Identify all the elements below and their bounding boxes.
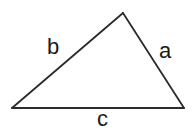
triangle-edge-a (123, 13, 184, 108)
triangle-diagram: b a c (0, 0, 196, 130)
side-label-b: b (47, 36, 59, 58)
side-label-c: c (97, 108, 108, 130)
triangle-edge-b (12, 13, 123, 108)
side-label-a: a (159, 40, 171, 62)
